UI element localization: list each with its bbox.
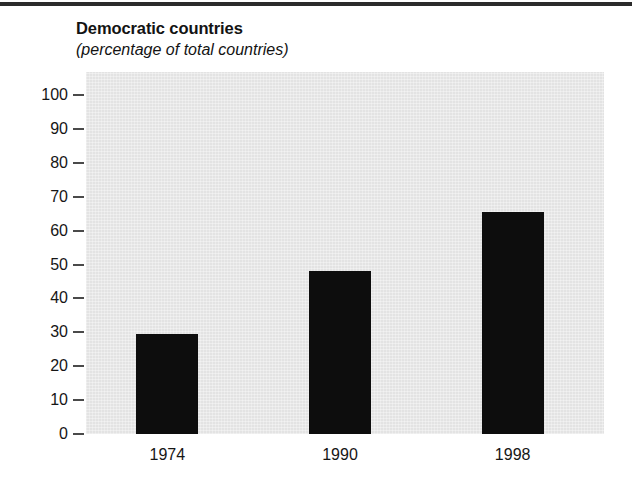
y-axis-tick: 70 bbox=[0, 189, 86, 205]
y-axis-tick-mark bbox=[73, 399, 84, 401]
y-axis-tick-mark bbox=[73, 94, 84, 96]
y-axis-tick-mark bbox=[73, 264, 84, 266]
y-axis-tick: 90 bbox=[0, 121, 86, 137]
y-axis-tick-label: 30 bbox=[8, 324, 68, 340]
bar-chart: 0102030405060708090100 197419901998 bbox=[0, 0, 632, 491]
y-axis-tick-label: 80 bbox=[8, 155, 68, 171]
x-axis-tick-label: 1974 bbox=[107, 446, 227, 464]
x-axis-tick-label: 1990 bbox=[280, 446, 400, 464]
y-axis-tick-label: 60 bbox=[8, 223, 68, 239]
y-axis-tick-label: 100 bbox=[8, 87, 68, 103]
y-axis-tick: 10 bbox=[0, 392, 86, 408]
y-axis-tick-mark bbox=[73, 128, 84, 130]
y-axis-tick-mark bbox=[73, 433, 84, 435]
bar bbox=[482, 212, 544, 434]
bar bbox=[309, 271, 371, 434]
y-axis-tick-mark bbox=[73, 297, 84, 299]
y-axis-tick-mark bbox=[73, 331, 84, 333]
y-axis-tick-mark bbox=[73, 365, 84, 367]
y-axis-tick-label: 90 bbox=[8, 121, 68, 137]
y-axis-tick: 50 bbox=[0, 257, 86, 273]
y-axis-tick-label: 20 bbox=[8, 358, 68, 374]
y-axis-tick-label: 40 bbox=[8, 290, 68, 306]
y-axis-tick: 0 bbox=[0, 426, 86, 442]
y-axis-tick-label: 70 bbox=[8, 189, 68, 205]
y-axis-tick-label: 0 bbox=[8, 426, 68, 442]
y-axis-tick-label: 50 bbox=[8, 257, 68, 273]
y-axis-tick-label: 10 bbox=[8, 392, 68, 408]
y-axis-tick: 40 bbox=[0, 290, 86, 306]
y-axis-tick: 20 bbox=[0, 358, 86, 374]
x-axis-tick-label: 1998 bbox=[453, 446, 573, 464]
y-axis-tick: 80 bbox=[0, 155, 86, 171]
y-axis-tick: 30 bbox=[0, 324, 86, 340]
bar bbox=[136, 334, 198, 434]
y-axis-tick-mark bbox=[73, 196, 84, 198]
y-axis-tick: 100 bbox=[0, 87, 86, 103]
y-axis-tick-mark bbox=[73, 162, 84, 164]
y-axis-tick-mark bbox=[73, 230, 84, 232]
y-axis-tick: 60 bbox=[0, 223, 86, 239]
